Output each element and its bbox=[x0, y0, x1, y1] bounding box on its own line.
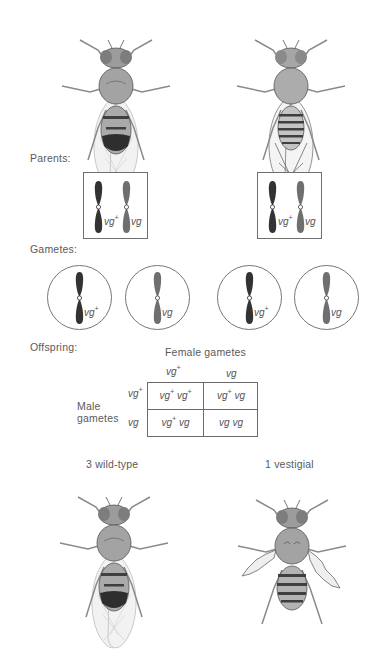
gamete-circle: vg bbox=[125, 265, 190, 330]
allele-label: vg+ bbox=[278, 216, 293, 227]
offspring-label: Offspring: bbox=[30, 341, 77, 353]
allele-label: vg+ bbox=[104, 216, 119, 227]
offspring-fly-vestigial bbox=[236, 488, 348, 633]
wild-type-count-label: 3 wild-type bbox=[86, 458, 138, 470]
chromosome-light-icon bbox=[153, 272, 162, 324]
parent-fly-left bbox=[60, 28, 172, 193]
parent-genotype-box-right: vg+ vg bbox=[257, 172, 322, 239]
row-header: vg+ bbox=[128, 388, 143, 399]
allele-label: vg bbox=[305, 216, 316, 227]
allele-label: vg bbox=[331, 307, 342, 318]
parent-fly-right bbox=[235, 28, 347, 193]
allele-label: vg+ bbox=[84, 307, 99, 318]
gametes-label: Gametes: bbox=[30, 243, 77, 255]
row-header: vg bbox=[128, 417, 139, 428]
male-gametes-title-line1: Male bbox=[77, 400, 119, 412]
chromosome-dark-icon bbox=[245, 272, 254, 324]
male-gametes-title: Male gametes bbox=[77, 400, 119, 424]
punnett-square: vg+ vg+ vg+ vg vg+ vg vg vg bbox=[147, 382, 258, 437]
chromosome-light-icon bbox=[322, 272, 331, 324]
chromosome-light-icon bbox=[122, 181, 131, 233]
punnett-cell: vg+ vg+ bbox=[148, 383, 203, 409]
punnett-cell: vg vg bbox=[204, 410, 258, 436]
chromosome-dark-icon bbox=[94, 181, 103, 233]
chromosome-dark-icon bbox=[268, 181, 277, 233]
male-gametes-title-line2: gametes bbox=[77, 412, 119, 424]
female-gametes-title: Female gametes bbox=[165, 346, 246, 358]
vestigial-count-label: 1 vestigial bbox=[265, 458, 314, 470]
gamete-circle: vg bbox=[294, 265, 359, 330]
parent-genotype-box-left: vg+ vg bbox=[83, 172, 148, 239]
allele-label: vg+ bbox=[254, 307, 269, 318]
allele-label: vg bbox=[131, 216, 142, 227]
chromosome-dark-icon bbox=[75, 272, 84, 324]
column-header: vg bbox=[226, 368, 237, 379]
offspring-fly-wild-type bbox=[58, 485, 170, 650]
punnett-cell: vg+ vg bbox=[204, 383, 258, 409]
column-header: vg+ bbox=[166, 366, 181, 377]
chromosome-light-icon bbox=[296, 181, 305, 233]
punnett-cell: vg+ vg bbox=[148, 410, 203, 436]
gamete-circle: vg+ bbox=[217, 265, 282, 330]
parents-label: Parents: bbox=[30, 152, 71, 164]
gamete-circle: vg+ bbox=[47, 265, 112, 330]
allele-label: vg bbox=[162, 307, 173, 318]
